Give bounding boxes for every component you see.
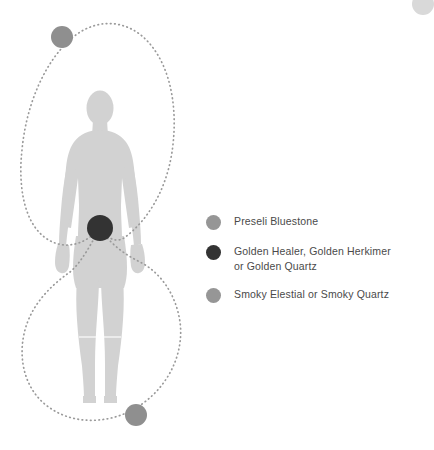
legend-swatch-smoky-elestial [206, 288, 221, 303]
legend-label-preseli-bluestone: Preseli Bluestone [234, 214, 318, 229]
sacral-crystal-point[interactable] [87, 215, 113, 241]
legend-item-preseli-bluestone[interactable]: Preseli Bluestone [206, 214, 406, 230]
legend-swatch-golden-healer [206, 245, 221, 260]
legend-item-golden-healer[interactable]: Golden Healer, Golden Herkimer or Golden… [206, 244, 406, 273]
legend-label-golden-healer: Golden Healer, Golden Herkimer or Golden… [234, 244, 391, 273]
legend-item-smoky-elestial[interactable]: Smoky Elestial or Smoky Quartz [206, 287, 406, 303]
crystal-legend: Preseli Bluestone Golden Healer, Golden … [206, 214, 406, 317]
earth-crystal-point[interactable] [125, 404, 147, 426]
human-body-silhouette [55, 91, 145, 404]
legend-swatch-preseli-bluestone [206, 215, 221, 230]
crown-crystal-point[interactable] [51, 26, 73, 48]
legend-label-smoky-elestial: Smoky Elestial or Smoky Quartz [234, 287, 389, 302]
